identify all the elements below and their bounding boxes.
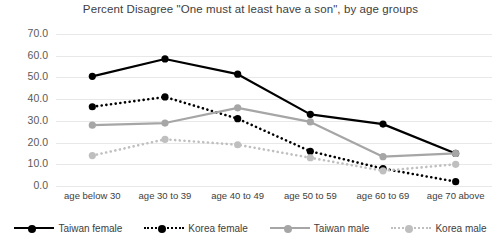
chart-legend: Taiwan femaleKorea femaleTaiwan maleKore…: [0, 222, 501, 234]
series-line: [92, 97, 455, 182]
legend-swatch: [14, 222, 54, 234]
data-point-marker: [452, 178, 459, 185]
y-axis-tick-label: 20.0: [0, 136, 48, 148]
data-point-marker: [234, 115, 241, 122]
data-point-marker: [307, 118, 314, 125]
data-point-marker: [161, 136, 168, 143]
x-axis-tick-label: age 60 to 69: [347, 190, 420, 201]
data-point-marker: [379, 167, 386, 174]
x-axis-tick-label: age 30 to 39: [129, 190, 202, 201]
legend-marker: [28, 225, 36, 233]
legend-swatch: [144, 222, 184, 234]
x-axis-tick-label: age 50 to 59: [274, 190, 347, 201]
legend-marker: [405, 225, 413, 233]
data-point-marker: [307, 111, 314, 118]
legend-marker: [284, 225, 292, 233]
data-point-marker: [89, 103, 96, 110]
data-point-marker: [89, 152, 96, 159]
data-point-marker: [161, 93, 168, 100]
gridline: [56, 186, 492, 187]
legend-swatch: [270, 222, 310, 234]
legend-label: Taiwan male: [314, 223, 370, 234]
legend-item[interactable]: Korea female: [144, 222, 247, 234]
x-axis-tick-label: age 40 to 49: [201, 190, 274, 201]
y-axis-tick-label: 0.0: [0, 179, 48, 191]
y-axis-tick-label: 40.0: [0, 92, 48, 104]
series-layer: [56, 34, 492, 186]
chart-container: Percent Disagree "One must at least have…: [0, 0, 501, 246]
x-axis-tick-label: age below 30: [56, 190, 129, 201]
data-point-marker: [89, 73, 96, 80]
data-point-marker: [379, 153, 386, 160]
data-point-marker: [307, 154, 314, 161]
data-point-marker: [307, 148, 314, 155]
series-line: [92, 59, 455, 153]
legend-swatch: [391, 222, 431, 234]
legend-item[interactable]: Taiwan male: [270, 222, 370, 234]
data-point-marker: [452, 161, 459, 168]
legend-label: Korea female: [188, 223, 247, 234]
y-axis-tick-label: 50.0: [0, 70, 48, 82]
data-point-marker: [234, 141, 241, 148]
data-point-marker: [234, 71, 241, 78]
data-point-marker: [234, 104, 241, 111]
legend-item[interactable]: Taiwan female: [14, 222, 122, 234]
legend-item[interactable]: Korea male: [391, 222, 486, 234]
data-point-marker: [161, 119, 168, 126]
chart-title: Percent Disagree "One must at least have…: [0, 3, 501, 15]
x-axis-tick-label: age 70 above: [419, 190, 492, 201]
legend-label: Korea male: [435, 223, 486, 234]
y-axis-tick-label: 70.0: [0, 27, 48, 39]
legend-label: Taiwan female: [58, 223, 122, 234]
data-point-marker: [452, 150, 459, 157]
legend-marker: [158, 225, 166, 233]
data-point-marker: [379, 121, 386, 128]
data-point-marker: [89, 122, 96, 129]
y-axis-tick-label: 10.0: [0, 157, 48, 169]
data-point-marker: [161, 55, 168, 62]
y-axis-tick-label: 30.0: [0, 114, 48, 126]
y-axis-tick-label: 60.0: [0, 49, 48, 61]
